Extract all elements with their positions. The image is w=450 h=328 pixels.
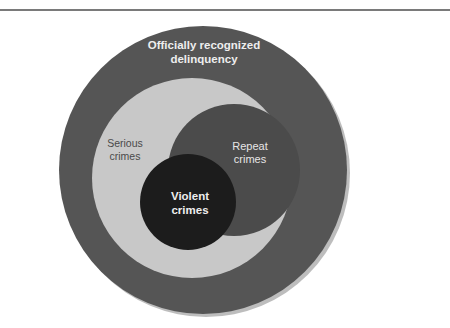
violent-crimes-label: Violent crimes [171, 190, 209, 218]
repeat-label-line-1: Repeat [232, 140, 267, 153]
repeat-label-line-2: crimes [232, 153, 267, 166]
serious-label-line-2: crimes [107, 150, 143, 163]
officially-recognized-delinquency-label: Officially recognized delinquency [148, 39, 260, 67]
serious-label-line-1: Serious [107, 137, 143, 150]
outer-label-line-1: Officially recognized [148, 39, 260, 53]
violent-label-line-2: crimes [171, 204, 209, 218]
violent-label-line-1: Violent [171, 190, 209, 204]
serious-crimes-label: Serious crimes [107, 137, 143, 162]
outer-label-line-2: delinquency [148, 53, 260, 67]
repeat-crimes-label: Repeat crimes [232, 140, 267, 166]
